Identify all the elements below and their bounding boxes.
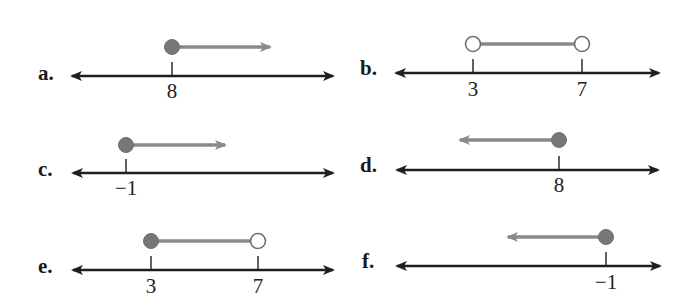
closed-endpoint-dot [552, 133, 567, 148]
closed-endpoint-dot [119, 138, 134, 153]
tick-label: 8 [554, 173, 565, 197]
open-endpoint-circle [251, 234, 266, 249]
tick-label: −1 [595, 270, 617, 294]
number-line-panel-e: e.37 [38, 234, 333, 299]
closed-endpoint-dot [599, 230, 614, 245]
panel-label: a. [38, 61, 54, 85]
number-line-panel-d: d.8 [360, 133, 658, 198]
tick-label: 3 [146, 274, 157, 298]
panel-label: b. [360, 56, 377, 80]
number-line-panel-b: b.37 [360, 37, 659, 102]
panel-label: f. [362, 249, 374, 273]
open-endpoint-circle [466, 37, 481, 52]
number-line-panel-f: f.−1 [362, 230, 660, 295]
panel-label: c. [38, 157, 53, 181]
number-line-panel-c: c.−1 [38, 138, 333, 201]
tick-label: 7 [253, 274, 264, 298]
tick-label: −1 [115, 176, 137, 200]
tick-label: 7 [577, 77, 588, 101]
panel-label: e. [38, 254, 53, 278]
number-line-figure: a.8b.37c.−1d.8e.37f.−1 [0, 0, 692, 306]
open-endpoint-circle [575, 37, 590, 52]
tick-label: 8 [167, 79, 178, 103]
panels-layer: a.8b.37c.−1d.8e.37f.−1 [38, 37, 660, 299]
tick-label: 3 [468, 77, 479, 101]
number-line-panel-a: a.8 [38, 40, 333, 104]
closed-endpoint-dot [144, 234, 159, 249]
closed-endpoint-dot [165, 40, 180, 55]
panel-label: d. [360, 153, 377, 177]
